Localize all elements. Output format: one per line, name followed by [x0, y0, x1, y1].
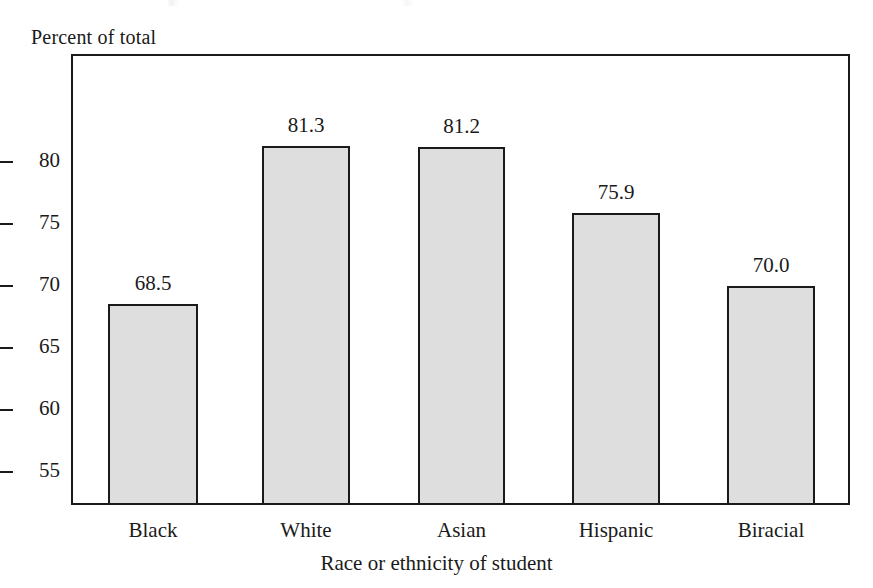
- bar-value-hispanic: 75.9: [542, 182, 690, 203]
- x-label-hispanic: Hispanic: [532, 519, 700, 541]
- y-tick-label-65: 65: [0, 336, 60, 357]
- y-axis-title: Percent of total: [31, 26, 156, 48]
- bar-chart-figure: Percent of total 80 75 70 65 60 55 68.5 …: [0, 0, 873, 588]
- bar-asian[interactable]: [418, 147, 505, 505]
- scan-artifact: [150, 0, 570, 6]
- y-tick-label-80: 80: [0, 150, 60, 171]
- y-tick-label-60: 60: [0, 398, 60, 419]
- x-label-biracial: Biracial: [687, 519, 855, 541]
- bar-hispanic[interactable]: [572, 213, 660, 505]
- bar-value-white: 81.3: [232, 115, 380, 136]
- y-tick-label-75: 75: [0, 212, 60, 233]
- bar-white[interactable]: [262, 146, 350, 505]
- x-label-asian: Asian: [378, 519, 545, 541]
- bar-black[interactable]: [108, 304, 198, 505]
- x-label-black: Black: [68, 519, 238, 541]
- bar-value-black: 68.5: [78, 273, 228, 294]
- x-label-white: White: [222, 519, 390, 541]
- y-tick-label-70: 70: [0, 274, 60, 295]
- x-axis-title: Race or ethnicity of student: [0, 552, 873, 575]
- bar-value-biracial: 70.0: [697, 255, 845, 276]
- bar-value-asian: 81.2: [388, 116, 535, 137]
- y-tick-label-55: 55: [0, 460, 60, 481]
- bar-biracial[interactable]: [727, 286, 815, 505]
